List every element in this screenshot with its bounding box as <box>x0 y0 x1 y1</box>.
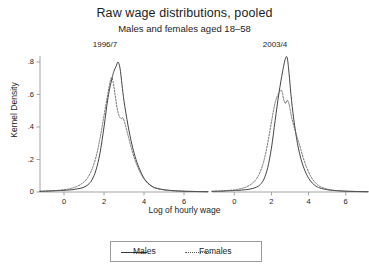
legend: Males Females <box>110 241 262 262</box>
density-curve-females-panel-2 <box>212 90 368 192</box>
legend-label-females: Females <box>199 246 232 256</box>
density-curve-males-panel-2 <box>212 57 368 192</box>
legend-label-males: Males <box>133 246 156 256</box>
density-curve-males-panel-1 <box>40 62 208 192</box>
plot-area <box>0 0 369 273</box>
kernel-density-figure: Raw wage distributions, pooled Males and… <box>0 0 369 273</box>
density-curve-females-panel-1 <box>40 78 208 192</box>
